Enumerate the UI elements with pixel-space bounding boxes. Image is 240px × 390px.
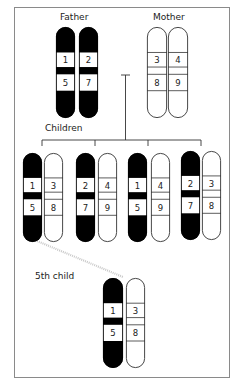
gene-label-lower: 9 — [158, 203, 163, 213]
paternal-chromatid — [103, 278, 123, 368]
chromosomes-layer: 1527384915382749154927381538 — [23, 27, 221, 368]
maternal-chromatid — [44, 153, 63, 242]
gene-label-lower: 8 — [154, 78, 159, 88]
mother-chromosome-2: 49 — [168, 27, 188, 118]
child-2-paternal-chromosome: 27 — [76, 153, 95, 242]
gene-label-lower: 8 — [209, 201, 214, 211]
paternal-chromatid — [181, 151, 200, 240]
gene-label-upper: 1 — [110, 306, 115, 316]
gene-label-upper: 4 — [158, 181, 163, 191]
father-chromosome-1: 15 — [56, 27, 75, 118]
gene-label-upper: 4 — [105, 181, 110, 191]
child-4-paternal-chromosome: 27 — [181, 151, 200, 240]
father-chromosome-2: 27 — [79, 27, 98, 118]
fifth-child-label: 5th child — [35, 272, 74, 281]
paternal-chromatid — [128, 153, 147, 242]
maternal-chromatid — [126, 278, 145, 368]
paternal-chromatid — [23, 153, 42, 242]
gene-label-lower: 7 — [86, 78, 91, 88]
gene-label-lower: 9 — [105, 203, 110, 213]
gene-label-upper: 1 — [135, 181, 140, 191]
child-1-maternal-chromosome: 38 — [44, 153, 63, 242]
inheritance-diagram: 1527384915382749154927381538 — [0, 0, 240, 390]
gene-label-upper: 3 — [133, 306, 138, 316]
paternal-chromatid — [76, 153, 95, 242]
child-4-maternal-chromosome: 38 — [202, 151, 221, 240]
maternal-chromatid — [168, 27, 188, 118]
fifth-child-maternal-chromosome: 38 — [126, 278, 145, 368]
gene-label-upper: 1 — [30, 181, 35, 191]
gene-label-upper: 2 — [86, 55, 91, 65]
gene-label-upper: 3 — [51, 181, 56, 191]
gene-label-upper: 2 — [188, 179, 193, 189]
paternal-chromatid — [79, 27, 98, 118]
gene-label-lower: 7 — [83, 203, 88, 213]
fifth-child-paternal-chromosome: 15 — [103, 278, 123, 368]
gene-label-upper: 4 — [175, 55, 180, 65]
maternal-chromatid — [147, 27, 167, 118]
gene-label-lower: 8 — [51, 203, 56, 213]
maternal-chromatid — [202, 151, 221, 240]
gene-label-lower: 7 — [188, 201, 193, 211]
gene-label-lower: 5 — [30, 203, 35, 213]
child-1-paternal-chromosome: 15 — [23, 153, 42, 242]
maternal-chromatid — [98, 153, 117, 242]
child-3-maternal-chromosome: 49 — [151, 153, 170, 242]
gene-label-upper: 1 — [63, 55, 68, 65]
father-label: Father — [60, 13, 88, 22]
maternal-chromatid — [151, 153, 170, 242]
gene-label-lower: 8 — [133, 328, 138, 338]
gene-label-upper: 2 — [83, 181, 88, 191]
mother-chromosome-1: 38 — [147, 27, 167, 118]
gene-label-lower: 5 — [135, 203, 140, 213]
mother-label: Mother — [153, 13, 185, 22]
paternal-chromatid — [56, 27, 75, 118]
child-2-maternal-chromosome: 49 — [98, 153, 117, 242]
gene-label-upper: 3 — [209, 179, 214, 189]
children-label: Children — [45, 124, 82, 133]
child-3-paternal-chromosome: 15 — [128, 153, 147, 242]
gene-label-lower: 9 — [175, 78, 180, 88]
gene-label-upper: 3 — [154, 55, 159, 65]
gene-label-lower: 5 — [63, 78, 68, 88]
gene-label-lower: 5 — [110, 328, 115, 338]
